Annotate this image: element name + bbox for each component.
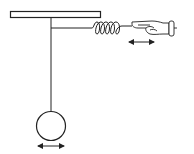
pendulum-bob xyxy=(37,112,66,141)
pendulum-diagram xyxy=(0,0,194,154)
spring xyxy=(92,22,132,34)
ceiling-bar xyxy=(11,12,101,18)
hand-icon xyxy=(132,21,177,36)
